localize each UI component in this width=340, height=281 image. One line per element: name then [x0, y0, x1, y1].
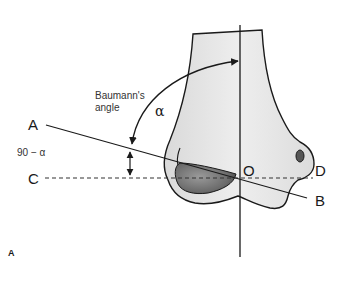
point-a-label: A [28, 117, 38, 132]
baumann-angle-label-line2: angle [95, 103, 119, 113]
point-d-label: D [315, 163, 326, 178]
ninety-minus-alpha-label: 90 − α [17, 148, 45, 158]
baumann-angle-label-line1: Baumann's [95, 91, 145, 101]
humerus-bone [164, 30, 314, 208]
diagram-canvas [0, 0, 340, 281]
point-b-label: B [315, 193, 325, 208]
point-o-label: O [243, 163, 255, 178]
panel-label: A [8, 249, 15, 258]
epicondyle-ossification-dot [296, 150, 304, 162]
alpha-label: α [155, 104, 164, 118]
point-c-label: C [28, 171, 39, 186]
baumann-angle-diagram: Baumann's angle α 90 − α A B C D O A [0, 0, 340, 281]
